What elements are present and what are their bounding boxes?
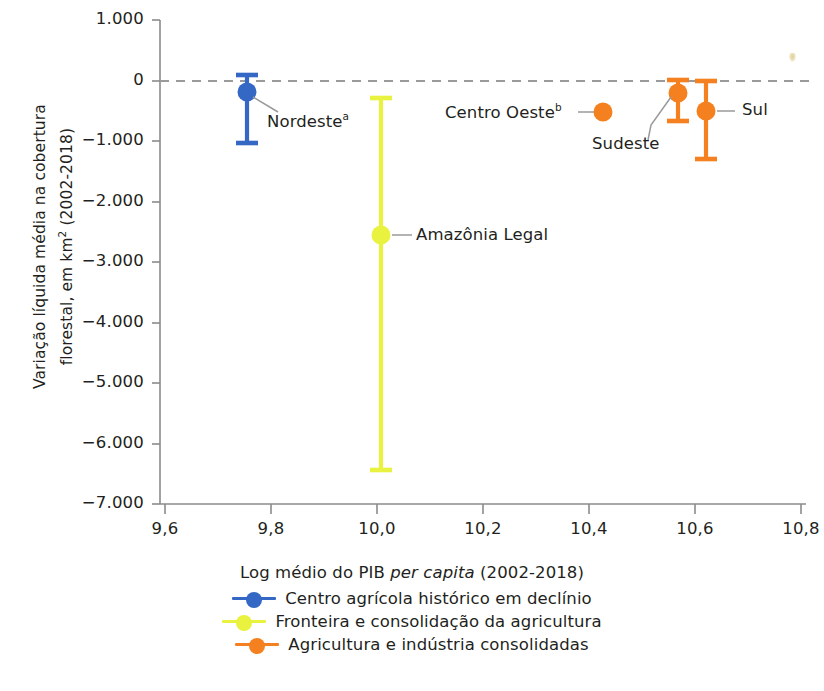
annotation-nordeste-text: Nordeste (267, 112, 343, 131)
annotation-sul: Sul (742, 100, 768, 119)
legend-key-orange (235, 637, 279, 653)
datapoint-sudeste (648, 80, 689, 140)
annotation-centro-oeste-text: Centro Oeste (445, 103, 555, 122)
y-tick-label-m7000: −7.000 (52, 493, 144, 512)
y-tick-label-m3000: −3.000 (52, 251, 144, 270)
annotation-amazonia-text: Amazônia Legal (416, 225, 548, 244)
x-tick-label-100: 10,0 (342, 519, 412, 538)
x-tick-label-98: 9,8 (236, 519, 306, 538)
x-tick-label-104: 10,4 (554, 519, 624, 538)
x-tick-label-108: 10,8 (766, 519, 824, 538)
legend-key-yellow (222, 614, 266, 630)
datapoint-nordeste (236, 75, 278, 143)
marker-nordeste (238, 83, 257, 102)
annotation-nordeste: Nordestea (267, 110, 349, 131)
legend-label-fronteira: Fronteira e consolidação da agricultura (275, 612, 601, 631)
annotation-sudeste: Sudeste (592, 134, 659, 153)
annotation-centro-oeste-sup: b (555, 101, 562, 113)
annotation-amazonia-legal: Amazônia Legal (416, 225, 548, 244)
legend-item-centro-agricola[interactable]: Centro agrícola histórico em declínio (232, 589, 592, 608)
y-tick-label-m2000: −2.000 (52, 191, 144, 210)
x-tick-marks (165, 504, 801, 514)
annotation-sul-text: Sul (742, 100, 768, 119)
x-axis-title-after: (2002-2018) (475, 563, 584, 582)
x-tick-label-106: 10,6 (660, 519, 730, 538)
y-tick-label-0: 0 (52, 70, 144, 89)
y-tick-label-m5000: −5.000 (52, 372, 144, 391)
marker-sudeste (669, 84, 688, 103)
y-tick-label-m4000: −4.000 (52, 312, 144, 331)
marker-centro-oeste (594, 103, 613, 122)
x-axis-title-italic: per capita (390, 563, 474, 582)
y-tick-label-1000: 1.000 (52, 9, 144, 28)
legend-item-fronteira[interactable]: Fronteira e consolidação da agricultura (222, 612, 601, 631)
legend-items: Centro agrícola histórico em declínio Fr… (0, 589, 824, 654)
annotation-nordeste-sup: a (343, 110, 350, 122)
legend-label-centro-agricola: Centro agrícola histórico em declínio (285, 589, 592, 608)
legend-key-blue (232, 591, 276, 607)
datapoint-amazonia-legal (370, 98, 412, 470)
y-tick-label-m1000: −1.000 (52, 130, 144, 149)
x-axis-title-before: Log médio do PIB (240, 563, 390, 582)
annotation-sudeste-text: Sudeste (592, 134, 659, 153)
legend: Log médio do PIB per capita (2002-2018) … (0, 563, 824, 654)
marker-sul (697, 102, 716, 121)
y-tick-marks (152, 20, 160, 504)
datapoint-sul (695, 81, 735, 159)
legend-item-agricultura-industria[interactable]: Agricultura e indústria consolidadas (235, 635, 588, 654)
x-tick-label-102: 10,2 (448, 519, 518, 538)
chart-container: Variação líquida média na coberturaflore… (0, 0, 824, 691)
x-axis-title: Log médio do PIB per capita (2002-2018) (0, 563, 824, 582)
x-tick-label-96: 9,6 (130, 519, 200, 538)
scan-artifact (789, 53, 796, 62)
marker-amazonia-legal (372, 226, 391, 245)
annotation-centro-oeste: Centro Oesteb (445, 101, 562, 122)
datapoint-centro-oeste (578, 103, 613, 122)
legend-label-agricultura-industria: Agricultura e indústria consolidadas (288, 635, 588, 654)
y-tick-label-m6000: −6.000 (52, 433, 144, 452)
